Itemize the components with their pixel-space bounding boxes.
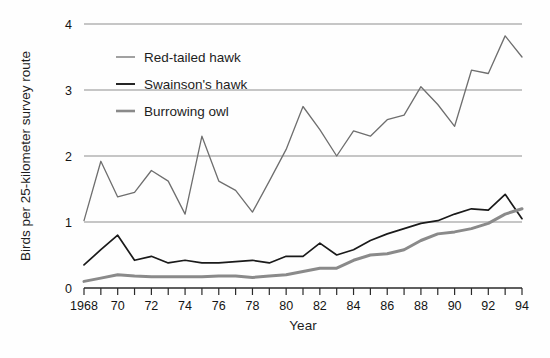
x-tick-label-1982: 82 [313, 299, 327, 313]
x-tick-label-1980: 80 [279, 299, 293, 313]
legend-label-2: Burrowing owl [144, 104, 229, 119]
x-tick-label-1976: 76 [212, 299, 226, 313]
x-tick-label-1990: 90 [448, 299, 462, 313]
legend-label-0: Red-tailed hawk [144, 50, 241, 65]
x-tick-label-1994: 94 [515, 299, 529, 313]
x-tick-label-1970: 70 [111, 299, 125, 313]
y-tick-label-1: 1 [65, 216, 72, 230]
x-tick-label-1972: 72 [144, 299, 158, 313]
y-tick-label-2: 2 [65, 150, 72, 164]
series-line-swainson-s-hawk [84, 194, 522, 265]
y-tick-label-3: 3 [65, 84, 72, 98]
x-tick-label-1978: 78 [246, 299, 260, 313]
y-axis-title: Birds per 25-kilometer survey route [18, 51, 33, 261]
y-tick-label-4: 4 [65, 18, 72, 32]
series-line-burrowing-owl [84, 209, 522, 282]
legend-label-1: Swainson's hawk [144, 77, 247, 92]
x-tick-label-1984: 84 [347, 299, 361, 313]
x-tick-label-1992: 92 [481, 299, 495, 313]
x-axis-title: Year [289, 318, 317, 333]
chart-canvas: 19687072747678808284868890929401234YearB… [0, 0, 550, 358]
x-tick-label-1974: 74 [178, 299, 192, 313]
y-tick-label-0: 0 [65, 282, 72, 296]
x-tick-label-1988: 88 [414, 299, 428, 313]
bird-survey-line-chart: 19687072747678808284868890929401234YearB… [0, 0, 550, 358]
x-tick-label-1968: 1968 [70, 299, 98, 313]
x-tick-label-1986: 86 [380, 299, 394, 313]
